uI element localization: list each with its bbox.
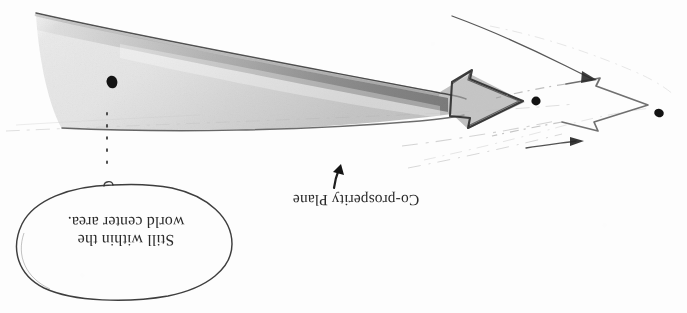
pointer-arrow-up	[333, 164, 344, 188]
scanned-diagram-drawing	[0, 0, 687, 313]
hollow-arrow	[492, 78, 648, 136]
thin-arrow-upper	[452, 16, 597, 83]
dot-right	[653, 108, 664, 118]
callout-text: Still within the world center area.	[36, 212, 216, 248]
dot-middle	[531, 97, 540, 106]
co-prosperity-plane-label: Co-prosperity Plane	[273, 191, 439, 208]
big-shaded-arrow	[20, 0, 540, 150]
thin-arrow-lower	[526, 137, 584, 148]
diagram-canvas: Still within the world center area. Co-p…	[0, 0, 687, 313]
faint-sweep-lines	[402, 121, 562, 168]
